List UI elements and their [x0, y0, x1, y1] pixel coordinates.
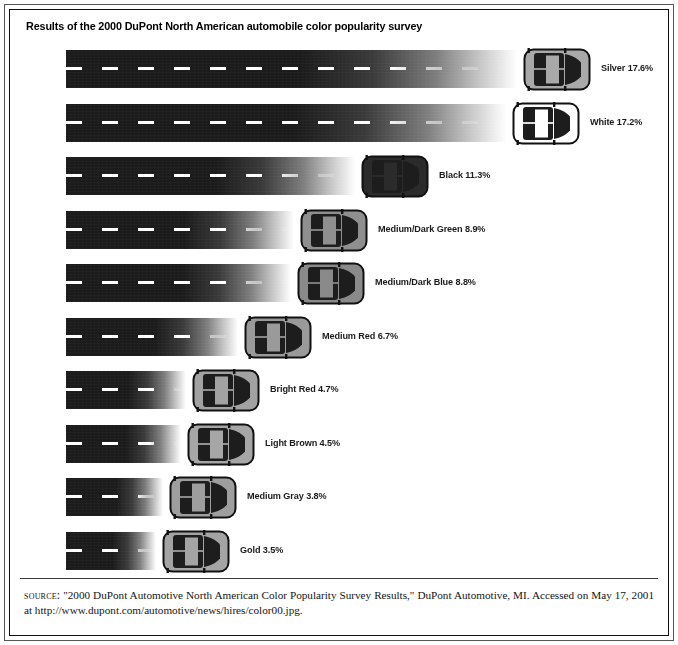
bar-label: Black 11.3% — [439, 169, 490, 180]
road-center-line — [66, 495, 163, 498]
source-divider — [20, 578, 658, 579]
road-center-line — [66, 388, 186, 391]
road-bar — [66, 532, 156, 570]
source-body: "2000 DuPont Automotive North American C… — [24, 589, 654, 616]
bar-label: White 17.2% — [590, 116, 642, 127]
bar-label: Medium/Dark Blue 8.8% — [375, 276, 476, 287]
road-center-line — [66, 121, 506, 124]
bar-label: Bright Red 4.7% — [270, 383, 339, 394]
road-bar — [66, 157, 355, 195]
car-icon — [521, 48, 593, 91]
bar-chart: Silver 17.6% White 17.2% Black 11.3% — [0, 0, 678, 578]
road-bar — [66, 318, 238, 356]
road-bar — [66, 264, 291, 302]
source-note: source: "2000 DuPont Automotive North Am… — [24, 588, 654, 617]
road-bar — [66, 211, 294, 249]
bar-label: Gold 3.5% — [240, 544, 283, 555]
car-icon — [295, 262, 367, 305]
road-center-line — [66, 335, 238, 338]
road-center-line — [66, 281, 291, 284]
road-bar — [66, 425, 181, 463]
road-center-line — [66, 228, 294, 231]
road-center-line — [66, 549, 156, 552]
bar-label: Light Brown 4.5% — [265, 437, 340, 448]
car-icon — [160, 530, 232, 573]
road-bar — [66, 50, 517, 88]
source-label: source: — [24, 588, 60, 602]
car-icon — [242, 316, 314, 359]
road-center-line — [66, 67, 517, 70]
bar-label: Silver 17.6% — [601, 62, 653, 73]
road-center-line — [66, 442, 181, 445]
car-icon — [359, 155, 431, 198]
car-icon — [298, 209, 370, 252]
bar-label: Medium/Dark Green 8.9% — [378, 223, 485, 234]
figure-container: Results of the 2000 DuPont North America… — [0, 0, 678, 645]
bar-label: Medium Gray 3.8% — [247, 490, 327, 501]
road-bar — [66, 104, 506, 142]
car-icon — [185, 423, 257, 466]
bar-label: Medium Red 6.7% — [322, 330, 398, 341]
car-icon — [167, 476, 239, 519]
car-icon — [190, 369, 262, 412]
road-bar — [66, 478, 163, 516]
road-center-line — [66, 174, 355, 177]
car-icon — [510, 102, 582, 145]
road-bar — [66, 371, 186, 409]
